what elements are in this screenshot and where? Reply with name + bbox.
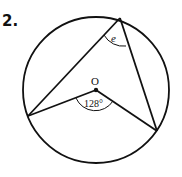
- circle-angle-diagram: e O 128°: [0, 0, 182, 177]
- center-label: O: [91, 75, 99, 87]
- chord-top-left: [28, 18, 120, 116]
- center-point: [94, 88, 98, 92]
- chord-top-right: [120, 18, 157, 131]
- radius-right: [96, 90, 157, 131]
- inscribed-angle-label: e: [111, 32, 116, 44]
- central-angle-label: 128°: [84, 98, 103, 109]
